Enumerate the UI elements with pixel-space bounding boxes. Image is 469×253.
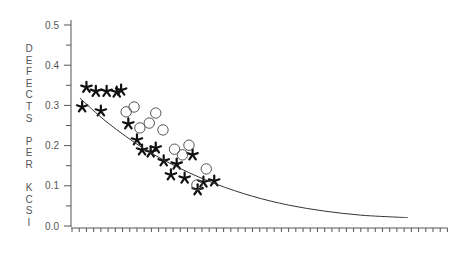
y-axis-label-letter: E bbox=[26, 55, 33, 66]
y-axis-label-letter: I bbox=[28, 217, 31, 228]
star-marker bbox=[101, 86, 111, 96]
star-marker bbox=[132, 134, 142, 144]
y-tick-label: 0.5 bbox=[45, 20, 59, 31]
circle-marker bbox=[158, 125, 168, 135]
y-axis-label-letter: S bbox=[26, 205, 33, 216]
star-marker bbox=[179, 173, 189, 183]
circle-marker bbox=[184, 140, 194, 150]
circle-marker bbox=[201, 164, 211, 174]
y-tick-label: 0.4 bbox=[45, 60, 59, 71]
y-tick-label: 0.2 bbox=[45, 140, 59, 151]
star-marker bbox=[209, 175, 219, 185]
y-axis-label-letter: E bbox=[26, 78, 33, 89]
defects-scatter-chart: DEFECTSPERKCSI 0.00.10.20.30.40.5 bbox=[0, 0, 469, 253]
y-axis-label-letter: T bbox=[26, 101, 32, 112]
y-tick-label: 0.3 bbox=[45, 100, 59, 111]
circle-marker bbox=[151, 108, 161, 118]
y-axis-label-letter: E bbox=[26, 147, 33, 158]
x-axis bbox=[71, 228, 447, 232]
y-axis: 0.00.10.20.30.40.5 bbox=[45, 20, 71, 232]
circle-marker bbox=[129, 102, 139, 112]
star-marker bbox=[91, 86, 101, 96]
y-axis-label-letter: C bbox=[25, 89, 32, 100]
plot-area bbox=[77, 82, 408, 218]
y-axis-label-letter: K bbox=[26, 182, 33, 193]
circle-marker bbox=[121, 107, 131, 117]
y-axis-label-letter: S bbox=[26, 113, 33, 124]
y-tick-label: 0.1 bbox=[45, 180, 59, 191]
y-axis-label-letter: F bbox=[26, 66, 32, 77]
circle-marker bbox=[177, 150, 187, 160]
y-axis-label-letter: P bbox=[26, 136, 33, 147]
circle-marker bbox=[135, 123, 145, 133]
star-marker bbox=[123, 118, 133, 128]
circle-marker bbox=[144, 118, 154, 128]
y-axis-label: DEFECTSPERKCSI bbox=[25, 43, 32, 228]
y-axis-label-letter: D bbox=[25, 43, 32, 54]
y-axis-label-letter: C bbox=[25, 194, 32, 205]
star-marker bbox=[198, 177, 208, 187]
y-axis-label-letter: R bbox=[25, 159, 32, 170]
star-marker bbox=[166, 169, 176, 179]
y-tick-label: 0.0 bbox=[45, 221, 59, 232]
